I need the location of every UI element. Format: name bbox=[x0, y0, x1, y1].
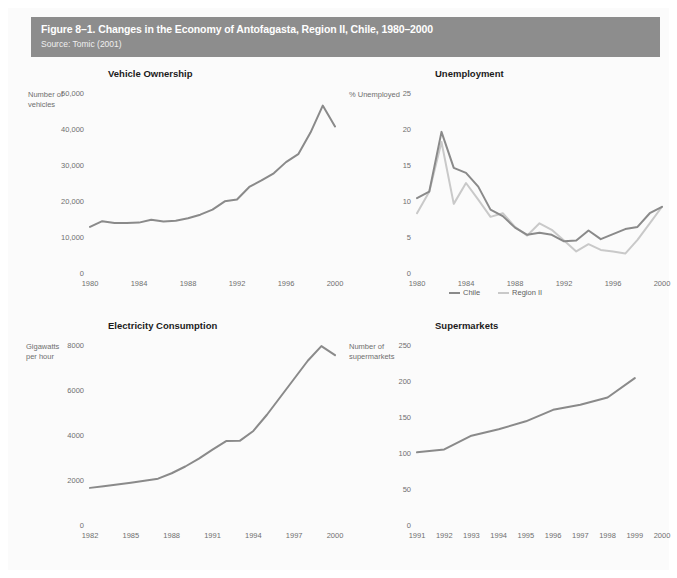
legend-item: Chile bbox=[449, 288, 480, 297]
x-tick-label: 1984 bbox=[131, 279, 148, 288]
chart-title-supermarkets: Supermarkets bbox=[435, 320, 498, 331]
x-tick-label: 1996 bbox=[605, 279, 622, 288]
x-tick-label: 1991 bbox=[409, 531, 426, 540]
x-tick-label: 1994 bbox=[490, 531, 507, 540]
figure-source: Source: Tomic (2001) bbox=[41, 38, 660, 50]
chart-lines bbox=[90, 93, 335, 273]
legend-label: Chile bbox=[463, 288, 480, 297]
x-tick-label: 1995 bbox=[518, 531, 535, 540]
x-tick-label: 1991 bbox=[204, 531, 221, 540]
series-line bbox=[90, 106, 335, 227]
series-line bbox=[417, 132, 662, 241]
x-tick-label: 1992 bbox=[436, 531, 453, 540]
plot-area-electricity-consumption: 0200040006000800019821985198819911994199… bbox=[90, 345, 335, 525]
x-tick-label: 1988 bbox=[507, 279, 524, 288]
chart-title-unemployment: Unemployment bbox=[435, 68, 504, 79]
y-tick-label: 0 bbox=[32, 521, 84, 530]
figure-page: Figure 8–1. Changes in the Economy of An… bbox=[8, 8, 669, 570]
x-tick-label: 1992 bbox=[556, 279, 573, 288]
x-tick-label: 1998 bbox=[599, 531, 616, 540]
x-tick-label: 2000 bbox=[654, 279, 671, 288]
y-tick-label: 20 bbox=[359, 125, 411, 134]
panel-electricity-consumption: Electricity Consumption Gigawattsper hou… bbox=[18, 320, 338, 550]
y-tick-label: 10,000 bbox=[32, 233, 84, 242]
legend-swatch bbox=[449, 292, 460, 294]
x-tick-label: 1988 bbox=[180, 279, 197, 288]
x-tick-label: 1997 bbox=[286, 531, 303, 540]
legend-swatch bbox=[498, 292, 509, 294]
plot-area-supermarkets: 0501001502002501991199219931994199519961… bbox=[417, 345, 662, 525]
chart-lines bbox=[90, 345, 335, 525]
x-tick-label: 2000 bbox=[327, 279, 344, 288]
y-tick-label: 10 bbox=[359, 197, 411, 206]
x-tick-label: 1982 bbox=[82, 531, 99, 540]
y-tick-label: 0 bbox=[32, 269, 84, 278]
series-line bbox=[90, 346, 335, 488]
figure-header: Figure 8–1. Changes in the Economy of An… bbox=[31, 17, 660, 57]
figure-title: Figure 8–1. Changes in the Economy of An… bbox=[41, 23, 660, 36]
panel-unemployment: Unemployment % Unemployed 05101520251980… bbox=[345, 68, 665, 313]
x-tick-label: 1980 bbox=[82, 279, 99, 288]
x-tick-label: 1996 bbox=[545, 531, 562, 540]
chart-title-vehicle-ownership: Vehicle Ownership bbox=[108, 68, 192, 79]
panel-vehicle-ownership: Vehicle Ownership Number ofvehicles 010,… bbox=[18, 68, 338, 298]
plot-area-vehicle-ownership: 010,00020,00030,00040,00050,000198019841… bbox=[90, 93, 335, 273]
y-axis-label-line: per hour bbox=[26, 352, 59, 362]
x-tick-label: 1985 bbox=[122, 531, 139, 540]
x-tick-label: 2000 bbox=[327, 531, 344, 540]
y-tick-label: 25 bbox=[359, 89, 411, 98]
y-tick-label: 40,000 bbox=[32, 125, 84, 134]
y-tick-label: 4000 bbox=[32, 431, 84, 440]
y-tick-label: 8000 bbox=[32, 341, 84, 350]
series-line bbox=[417, 378, 635, 452]
y-tick-label: 0 bbox=[359, 269, 411, 278]
panel-supermarkets: Supermarkets Number ofsupermarkets 05010… bbox=[345, 320, 665, 550]
legend-label: Region II bbox=[512, 288, 542, 297]
series-line bbox=[417, 142, 662, 254]
y-tick-label: 250 bbox=[359, 341, 411, 350]
x-tick-label: 1984 bbox=[458, 279, 475, 288]
plot-area-unemployment: 0510152025198019841988199219962000 bbox=[417, 93, 662, 273]
x-tick-label: 2000 bbox=[654, 531, 671, 540]
x-tick-label: 1999 bbox=[626, 531, 643, 540]
y-tick-label: 50 bbox=[359, 485, 411, 494]
y-tick-label: 15 bbox=[359, 161, 411, 170]
x-tick-label: 1993 bbox=[463, 531, 480, 540]
x-tick-label: 1988 bbox=[163, 531, 180, 540]
x-tick-label: 1996 bbox=[278, 279, 295, 288]
legend-item: Region II bbox=[498, 288, 542, 297]
legend-unemployment: ChileRegion II bbox=[449, 288, 556, 297]
x-tick-label: 1980 bbox=[409, 279, 426, 288]
y-tick-label: 2000 bbox=[32, 476, 84, 485]
chart-title-electricity-consumption: Electricity Consumption bbox=[108, 320, 217, 331]
y-axis-label-line: supermarkets bbox=[349, 352, 394, 362]
y-tick-label: 200 bbox=[359, 377, 411, 386]
y-tick-label: 100 bbox=[359, 449, 411, 458]
x-tick-label: 1997 bbox=[572, 531, 589, 540]
y-tick-label: 30,000 bbox=[32, 161, 84, 170]
x-tick-label: 1992 bbox=[229, 279, 246, 288]
y-tick-label: 150 bbox=[359, 413, 411, 422]
y-tick-label: 0 bbox=[359, 521, 411, 530]
x-tick-label: 1994 bbox=[245, 531, 262, 540]
chart-lines bbox=[417, 93, 662, 273]
y-tick-label: 50,000 bbox=[32, 89, 84, 98]
y-axis-label-line: vehicles bbox=[28, 100, 63, 110]
y-tick-label: 5 bbox=[359, 233, 411, 242]
y-tick-label: 6000 bbox=[32, 386, 84, 395]
chart-lines bbox=[417, 345, 662, 525]
y-tick-label: 20,000 bbox=[32, 197, 84, 206]
